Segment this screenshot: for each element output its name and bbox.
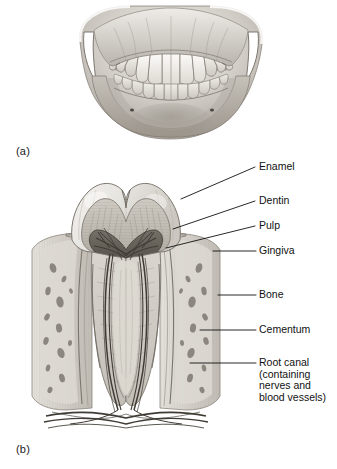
leader-line-pulp: [166, 226, 255, 248]
callout-label-root-canal-line1: Root canal: [259, 357, 326, 369]
callout-label-dentin: Dentin: [259, 195, 289, 207]
leader-line-enamel: [181, 167, 255, 199]
callout-label-pulp: Pulp: [259, 220, 280, 232]
callout-label-gingiva: Gingiva: [259, 245, 295, 257]
callout-label-root-canal: Root canal (containing nerves and blood …: [259, 357, 326, 403]
leader-line-dentin: [173, 201, 255, 229]
callout-label-cementum: Cementum: [259, 324, 310, 336]
figure-canvas: (a): [0, 0, 337, 469]
callout-label-bone: Bone: [259, 289, 284, 301]
callout-label-root-canal-line4: blood vessels): [259, 392, 326, 404]
callout-label-enamel: Enamel: [259, 161, 295, 173]
